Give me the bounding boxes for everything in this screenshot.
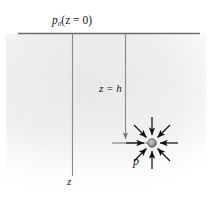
label-depth-marker: z = h xyxy=(99,83,122,94)
label-surface-pressure-symbol: p xyxy=(52,14,58,26)
label-surface-pressure: p0(z = 0) xyxy=(52,15,92,27)
label-point-pressure: p xyxy=(133,155,139,167)
diagram-canvas xyxy=(0,0,213,210)
pressure-diagram: p0(z = 0) z = h p z xyxy=(0,0,213,210)
medium-shading xyxy=(6,34,206,186)
label-surface-pressure-subscript: 0 xyxy=(58,20,62,28)
label-z-axis: z xyxy=(67,176,71,187)
pressure-point-dot xyxy=(148,139,157,148)
label-surface-pressure-argument: (z = 0) xyxy=(61,14,92,26)
